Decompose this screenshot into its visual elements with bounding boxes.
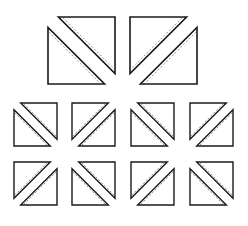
hst-canvas xyxy=(0,0,248,226)
small-square-unit xyxy=(190,162,233,205)
small-square-unit xyxy=(131,162,174,205)
small-squares-group xyxy=(14,103,233,205)
small-square-unit xyxy=(72,162,115,205)
large-square-unit xyxy=(130,17,197,84)
small-square-unit xyxy=(131,103,174,146)
large-squares-group xyxy=(48,17,197,84)
small-square-unit xyxy=(14,103,57,146)
small-square-unit xyxy=(14,162,57,205)
small-square-unit xyxy=(72,103,115,146)
small-square-unit xyxy=(190,103,233,146)
large-square-unit xyxy=(48,17,115,84)
